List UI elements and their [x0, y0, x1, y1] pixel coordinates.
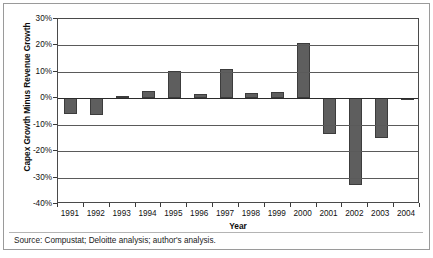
y-tick-label: 20%	[6, 40, 52, 49]
bar	[375, 98, 388, 138]
y-tick-label: 10%	[6, 66, 52, 75]
x-tick-label: 2001	[319, 209, 337, 218]
x-tick-mark	[419, 203, 420, 207]
bar	[323, 98, 336, 134]
x-tick-label: 1998	[242, 209, 260, 218]
x-tick-label: 1994	[138, 209, 156, 218]
y-tick-label: -30%	[6, 172, 52, 181]
y-tick-label: -10%	[6, 119, 52, 128]
x-tick-label: 2000	[294, 209, 312, 218]
bar	[220, 69, 233, 98]
bar	[142, 91, 155, 98]
x-tick-mark	[160, 203, 161, 207]
x-tick-mark	[393, 203, 394, 207]
y-tick-mark	[53, 150, 57, 151]
x-tick-label: 1995	[164, 209, 182, 218]
gridline	[58, 72, 418, 73]
x-tick-mark	[290, 203, 291, 207]
bar	[90, 98, 103, 115]
x-tick-label: 2003	[371, 209, 389, 218]
x-tick-label: 1997	[216, 209, 234, 218]
x-tick-label: 1992	[87, 209, 105, 218]
gridline	[58, 45, 418, 46]
x-tick-mark	[341, 203, 342, 207]
x-tick-mark	[83, 203, 84, 207]
y-tick-mark	[53, 177, 57, 178]
x-tick-mark	[135, 203, 136, 207]
source-note: Source: Compustat; Deloitte analysis; au…	[14, 236, 216, 245]
y-tick-mark	[53, 97, 57, 98]
x-tick-mark	[186, 203, 187, 207]
gridline	[58, 125, 418, 126]
plot-area	[57, 18, 419, 203]
y-tick-label: 30%	[6, 14, 52, 23]
y-tick-label: 0%	[6, 93, 52, 102]
y-tick-mark	[53, 18, 57, 19]
y-tick-mark	[53, 71, 57, 72]
bar	[349, 98, 362, 185]
source-divider	[9, 232, 423, 233]
x-tick-label: 2004	[397, 209, 415, 218]
x-tick-mark	[238, 203, 239, 207]
x-tick-label: 1999	[268, 209, 286, 218]
x-tick-mark	[367, 203, 368, 207]
bar	[168, 71, 181, 98]
x-tick-label: 1991	[61, 209, 79, 218]
x-tick-label: 2002	[345, 209, 363, 218]
x-tick-mark	[57, 203, 58, 207]
bars-layer	[58, 19, 418, 202]
bar	[297, 43, 310, 98]
y-tick-label: -40%	[6, 199, 52, 208]
y-tick-mark	[53, 124, 57, 125]
bar	[64, 98, 77, 114]
y-tick-mark	[53, 44, 57, 45]
x-axis-title: Year	[57, 221, 419, 231]
x-tick-label: 1996	[190, 209, 208, 218]
x-tick-mark	[316, 203, 317, 207]
gridline	[58, 151, 418, 152]
x-tick-mark	[212, 203, 213, 207]
zero-gridline	[58, 98, 418, 99]
chart-figure: Capex Growth Minus Revenue Growth 30%20%…	[0, 0, 433, 258]
x-tick-mark	[109, 203, 110, 207]
y-tick-label: -20%	[6, 146, 52, 155]
gridline	[58, 178, 418, 179]
x-tick-mark	[264, 203, 265, 207]
x-tick-label: 1993	[113, 209, 131, 218]
